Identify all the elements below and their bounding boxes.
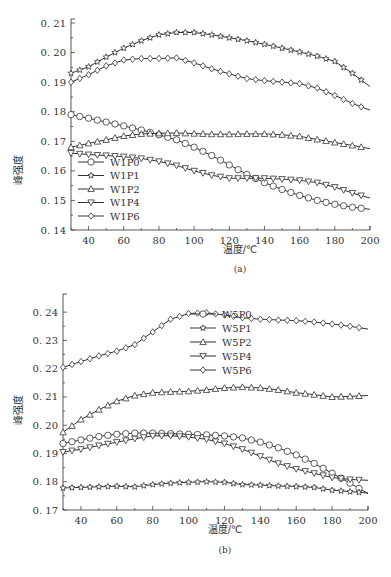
w5p6-marker-diamond-icon	[105, 350, 110, 356]
w5p1-marker-star-icon	[338, 488, 344, 494]
w1p0-marker-circle-icon	[358, 205, 364, 211]
w5p0-marker-circle-icon	[239, 435, 245, 441]
x-tick-label: 180	[325, 235, 344, 246]
w1p1-marker-star-icon	[112, 49, 118, 55]
w1p6-marker-diamond-icon	[68, 79, 73, 85]
w1p6-marker-diamond-icon	[86, 72, 91, 78]
legend-label: W5P6	[222, 365, 252, 376]
legend-item-w5p0: W5P0	[190, 309, 252, 320]
legend-item-w1p0: W1P0	[78, 157, 140, 168]
w5p1-marker-star-icon	[87, 484, 93, 490]
w1p6-marker-diamond-icon	[218, 68, 223, 74]
w5p6-marker-diamond-icon	[69, 361, 74, 367]
w5p1-marker-star-icon	[284, 483, 290, 489]
w1p1-marker-star-icon	[200, 30, 206, 36]
legend-label: W5P2	[222, 337, 252, 348]
w1p1-marker-star-icon	[165, 30, 171, 36]
w5p1-marker-star-icon	[177, 480, 183, 486]
w5p1-marker-star-icon	[347, 488, 353, 494]
legend-label: W1P4	[110, 197, 140, 208]
w1p6-marker-diamond-icon	[236, 73, 241, 79]
w5p0-marker-circle-icon	[132, 430, 138, 436]
y-tick-label: 0. 15	[41, 195, 66, 206]
w5p6-marker-diamond-icon	[267, 316, 272, 322]
w1p1-marker-star-icon	[209, 32, 215, 38]
w5p6-marker-diamond-icon	[258, 316, 263, 322]
w1p6-marker-diamond-icon	[130, 56, 135, 62]
legend-label: W5P1	[222, 323, 252, 334]
w5p1-marker-star-icon	[239, 481, 245, 487]
w1p6-marker-diamond-icon	[192, 60, 197, 66]
w1p0-marker-circle-icon	[332, 201, 338, 207]
w1p1-marker-star-icon	[173, 29, 179, 35]
y-tick-label: 0. 24	[33, 307, 58, 318]
w1p0-marker-circle-icon	[314, 197, 320, 203]
w1p0-marker-circle-icon	[129, 125, 135, 131]
y-tick-label: 0. 14	[41, 225, 66, 236]
w1p6-marker-diamond-icon	[148, 55, 153, 61]
w5p6-marker-diamond-icon	[321, 320, 326, 326]
w5p1-marker-star-icon	[275, 483, 281, 489]
w1p1-marker-star-icon	[305, 51, 311, 57]
w5p6-marker-diamond-icon	[159, 322, 164, 328]
legend-label: W1P1	[110, 170, 140, 181]
w1p0-marker-circle-icon	[296, 192, 302, 198]
series-w5p6	[60, 309, 368, 370]
y-tick-label: 0. 23	[33, 335, 58, 346]
w1p1-marker-star-icon	[130, 41, 136, 47]
x-tick-label: 140	[251, 515, 270, 526]
y-tick-label: 0. 20	[33, 420, 58, 431]
w1p1-marker-star-icon	[279, 45, 285, 51]
w5p4-marker-triangle-down-icon	[239, 447, 245, 453]
w5p6-marker-diamond-icon	[132, 341, 137, 347]
w5p4-marker-triangle-down-icon	[257, 454, 263, 460]
w1p1-marker-star-icon	[244, 38, 250, 44]
legend-w1p1-marker-star-icon	[88, 172, 94, 178]
legend-label: W5P4	[222, 351, 252, 362]
w5p1-marker-star-icon	[221, 479, 227, 485]
y-tick-label: 0. 17	[41, 136, 66, 147]
w1p6-marker-diamond-icon	[288, 80, 293, 86]
w1p6-marker-diamond-icon	[139, 55, 144, 61]
w5p6-marker-diamond-icon	[78, 358, 83, 364]
w1p6-marker-diamond-icon	[156, 55, 161, 61]
w5p2-marker-triangle-up-icon	[78, 416, 84, 422]
w1p1-marker-star-icon	[182, 29, 188, 35]
w5p1-marker-star-icon	[186, 479, 192, 485]
w1p0-marker-circle-icon	[94, 117, 100, 123]
legend-item-w5p6: W5P6	[190, 365, 252, 376]
w5p6-marker-diamond-icon	[330, 321, 335, 327]
x-tick-label: 200	[358, 515, 377, 526]
w5p6-marker-diamond-icon	[347, 323, 352, 329]
w5p1-marker-star-icon	[123, 483, 129, 489]
w1p6-marker-diamond-icon	[227, 71, 232, 77]
w5p6-marker-diamond-icon	[177, 313, 182, 319]
w5p6-marker-diamond-icon	[276, 317, 281, 323]
legend-item-w1p2: W1P2	[78, 184, 140, 195]
w1p6-marker-diamond-icon	[77, 75, 82, 81]
w5p1-marker-star-icon	[302, 484, 308, 490]
axes: 4060801001201401601802000. 140. 150. 160…	[41, 18, 380, 247]
w1p6-marker-diamond-icon	[279, 79, 284, 85]
w5p2-marker-triangle-up-icon	[87, 411, 93, 417]
w1p6-marker-diamond-icon	[350, 100, 355, 106]
w1p1-marker-star-icon	[217, 33, 223, 39]
legend-item-w5p1: W5P1	[190, 323, 252, 334]
legend-item-w5p2: W5P2	[190, 337, 252, 348]
w5p2-marker-triangle-up-icon	[96, 406, 102, 412]
w5p0-marker-circle-icon	[105, 432, 111, 438]
w5p6-marker-diamond-icon	[168, 316, 173, 322]
y-tick-label: 0. 18	[33, 476, 58, 487]
w1p6-marker-diamond-icon	[271, 78, 276, 84]
w5p6-marker-diamond-icon	[285, 317, 290, 323]
figure-caption: (a)	[234, 264, 246, 274]
w5p1-marker-star-icon	[248, 482, 254, 488]
w5p1-marker-star-icon	[203, 479, 209, 485]
legend-item-w1p4: W1P4	[78, 197, 140, 208]
x-tick-label: 100	[179, 515, 198, 526]
x-tick-label: 80	[146, 515, 159, 526]
w1p0-marker-circle-icon	[288, 189, 294, 195]
y-tick-label: 0. 17	[33, 505, 58, 516]
w1p0-marker-circle-icon	[209, 152, 215, 158]
w5p0-marker-circle-icon	[78, 437, 84, 443]
